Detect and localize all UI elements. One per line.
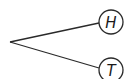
node-heads-label: H xyxy=(105,14,116,32)
node-tails: T xyxy=(99,58,123,79)
branch-to-tails xyxy=(10,42,99,68)
tree-canvas: H T xyxy=(0,0,131,79)
branch-to-heads xyxy=(10,23,99,42)
node-heads: H xyxy=(99,10,123,34)
probability-tree-diagram: H T xyxy=(0,0,131,79)
